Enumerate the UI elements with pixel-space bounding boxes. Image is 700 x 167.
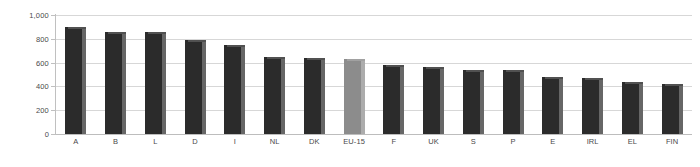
bar-s[interactable] — [463, 70, 484, 134]
bar-l[interactable] — [145, 32, 166, 134]
bar-top-edge — [665, 84, 683, 86]
bar-top-edge — [267, 57, 285, 59]
bar-face — [65, 27, 82, 134]
bar-slot — [463, 15, 484, 134]
bar-top-edge — [148, 32, 166, 34]
bar-top-edge — [585, 78, 603, 80]
y-tick-mark-200 — [51, 110, 55, 111]
bar-chart: 1,000 800 600 400 200 0 ABLDINLDKEU-15FU… — [0, 0, 700, 167]
bar-uk[interactable] — [423, 67, 444, 134]
bar-face — [344, 59, 361, 134]
bar-top-edge — [386, 65, 404, 67]
bar-eu-15[interactable] — [344, 59, 365, 134]
bar-slot — [224, 15, 245, 134]
bar-i[interactable] — [224, 45, 245, 134]
bar-side-shadow — [281, 59, 285, 134]
y-tick-mark-800 — [51, 39, 55, 40]
bar-face — [503, 70, 520, 134]
y-axis-tick-labels: 1,000 800 600 400 200 0 — [0, 15, 49, 134]
bar-face — [582, 78, 599, 134]
bar-top-edge — [466, 70, 484, 72]
bar-b[interactable] — [105, 32, 126, 134]
bar-top-edge — [108, 32, 126, 34]
bar-face — [423, 67, 440, 134]
x-tick-label-el: EL — [613, 137, 653, 146]
bar-face — [662, 84, 679, 134]
x-tick-label-irl: IRL — [573, 137, 613, 146]
bar-face — [304, 58, 321, 134]
bar-side-shadow — [559, 79, 563, 134]
bar-face — [463, 70, 480, 134]
x-tick-label-e: E — [533, 137, 573, 146]
bar-side-shadow — [440, 69, 444, 134]
bar-side-shadow — [82, 29, 86, 134]
x-tick-label-p: P — [493, 137, 533, 146]
y-tick-label-0: 0 — [45, 130, 49, 139]
bar-p[interactable] — [503, 70, 524, 134]
bar-slot — [542, 15, 563, 134]
bar-d[interactable] — [185, 40, 206, 134]
bar-nl[interactable] — [264, 57, 285, 134]
x-tick-label-s: S — [454, 137, 494, 146]
bar-face — [264, 57, 281, 134]
bar-face — [224, 45, 241, 134]
bar-f[interactable] — [383, 65, 404, 134]
x-axis-line — [56, 134, 692, 135]
y-tick-label-400: 400 — [36, 82, 49, 91]
bar-side-shadow — [639, 84, 643, 134]
bar-face — [542, 77, 559, 134]
y-tick-label-800: 800 — [36, 34, 49, 43]
y-tick-mark-1000 — [51, 15, 55, 16]
bar-side-shadow — [122, 34, 126, 134]
bar-slot — [304, 15, 325, 134]
bar-top-edge — [545, 77, 563, 79]
bar-side-shadow — [162, 34, 166, 134]
bar-side-shadow — [480, 72, 484, 134]
bar-top-edge — [188, 40, 206, 42]
y-tick-label-600: 600 — [36, 58, 49, 67]
x-tick-label-a: A — [56, 137, 96, 146]
bar-top-edge — [227, 45, 245, 47]
x-tick-label-l: L — [136, 137, 176, 146]
bar-slot — [264, 15, 285, 134]
bar-top-edge — [307, 58, 325, 60]
bar-top-edge — [68, 27, 86, 29]
x-tick-label-nl: NL — [255, 137, 295, 146]
bar-side-shadow — [321, 60, 325, 134]
bar-slot — [423, 15, 444, 134]
bar-face — [383, 65, 400, 134]
bar-slot — [185, 15, 206, 134]
bar-irl[interactable] — [582, 78, 603, 134]
x-tick-label-eu-15: EU-15 — [334, 137, 374, 146]
bar-slot — [65, 15, 86, 134]
bar-top-edge — [506, 70, 524, 72]
x-tick-label-fin: FIN — [652, 137, 692, 146]
bar-slot — [145, 15, 166, 134]
bar-side-shadow — [400, 67, 404, 134]
bar-slot — [662, 15, 683, 134]
bars-layer — [56, 15, 692, 134]
x-axis-tick-labels: ABLDINLDKEU-15FUKSPEIRLELFIN — [56, 137, 692, 151]
bar-slot — [582, 15, 603, 134]
bar-a[interactable] — [65, 27, 86, 134]
bar-face — [622, 82, 639, 134]
bar-face — [105, 32, 122, 134]
bar-face — [145, 32, 162, 134]
y-tick-label-200: 200 — [36, 106, 49, 115]
bar-el[interactable] — [622, 82, 643, 134]
bar-face — [185, 40, 202, 134]
bar-slot — [503, 15, 524, 134]
x-tick-label-dk: DK — [295, 137, 335, 146]
bar-slot — [344, 15, 365, 134]
bar-side-shadow — [361, 61, 365, 134]
bar-top-edge — [347, 59, 365, 61]
bar-side-shadow — [520, 72, 524, 134]
bar-e[interactable] — [542, 77, 563, 134]
bar-dk[interactable] — [304, 58, 325, 134]
bar-top-edge — [625, 82, 643, 84]
x-tick-label-f: F — [374, 137, 414, 146]
x-tick-label-i: I — [215, 137, 255, 146]
x-tick-label-b: B — [96, 137, 136, 146]
y-tick-label-1000: 1,000 — [29, 11, 49, 20]
bar-fin[interactable] — [662, 84, 683, 134]
